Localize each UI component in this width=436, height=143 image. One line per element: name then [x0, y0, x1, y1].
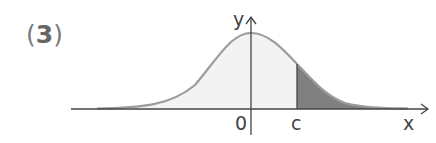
x-axis-label: x — [403, 112, 414, 134]
light-area — [97, 33, 297, 109]
origin-label: 0 — [235, 112, 247, 134]
shaded-tail-area — [297, 64, 408, 109]
c-label: c — [291, 112, 301, 134]
y-axis-label: y — [233, 8, 244, 30]
normal-curve-diagram — [0, 0, 436, 143]
